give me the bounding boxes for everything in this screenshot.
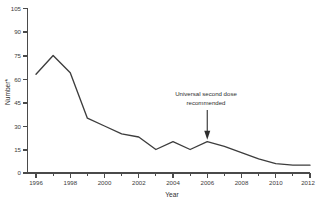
x-axis-title: Year	[165, 191, 179, 198]
x-tick-label-2006: 2006	[201, 179, 215, 186]
y-tick-label-90: 90	[14, 28, 21, 35]
x-tick-label-2000: 2000	[98, 179, 112, 186]
y-axis-tick-labels: 105 90 75 60 45 30 15 0	[11, 5, 22, 177]
x-tick-label-2002: 2002	[132, 179, 146, 186]
annotation-line-1: Universal second dose	[175, 90, 237, 97]
x-tick-label-2012: 2012	[301, 179, 315, 186]
x-tick-label-2004: 2004	[166, 179, 180, 186]
x-tick-label-1998: 1998	[64, 179, 78, 186]
x-axis-tick-labels: 1996 1998 2000 2002 2004 2006 2008 2010 …	[29, 179, 315, 186]
y-tick-label-75: 75	[14, 52, 21, 59]
y-tick-label-0: 0	[18, 169, 22, 176]
y-tick-label-30: 30	[14, 123, 21, 130]
chart-axes	[28, 8, 311, 173]
chart-page: 105 90 75 60 45 30 15 0	[0, 0, 317, 202]
x-tick-label-2008: 2008	[235, 179, 249, 186]
y-tick-label-15: 15	[14, 146, 21, 153]
line-chart: 105 90 75 60 45 30 15 0	[0, 0, 317, 202]
y-tick-label-105: 105	[11, 5, 22, 12]
data-series-line	[36, 56, 310, 166]
annotation-line-2: recommended	[187, 99, 226, 106]
annotation-arrow-head-icon	[204, 131, 210, 140]
annotation-universal-second-dose: Universal second dose recommended	[175, 90, 237, 140]
x-tick-label-1996: 1996	[29, 179, 43, 186]
y-axis-title: Number*	[4, 79, 11, 105]
x-tick-label-2010: 2010	[269, 179, 283, 186]
y-tick-label-45: 45	[14, 99, 21, 106]
y-tick-label-60: 60	[14, 76, 21, 83]
